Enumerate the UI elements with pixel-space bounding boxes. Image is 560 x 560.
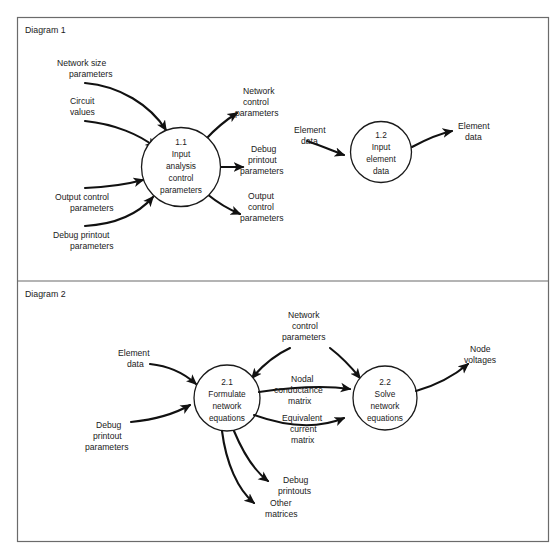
label-network-control-parameters-out-line2: control bbox=[243, 97, 269, 107]
outer-frame bbox=[18, 18, 549, 542]
label-network-control-parameters-2-line2: control bbox=[292, 321, 318, 331]
label-debug-printouts: Debug bbox=[283, 475, 309, 485]
process-1-1-line5: parameters bbox=[160, 185, 202, 195]
label-nodal-conductance-matrix: Nodal bbox=[291, 374, 314, 384]
process-1-2-id: 1.2 bbox=[375, 130, 387, 140]
label-nodal-conductance-matrix-line3: matrix bbox=[288, 396, 312, 406]
flow-element-data-out-of-1-2 bbox=[412, 131, 452, 147]
label-network-size-parameters: Network size bbox=[57, 58, 106, 68]
label-debug-printout-parameters-in: Debug printout bbox=[53, 230, 110, 240]
label-element-data-into-1-2: Element bbox=[294, 125, 326, 135]
label-other-matrices: Other bbox=[270, 498, 292, 508]
process-2-1-line2: Formulate bbox=[208, 389, 246, 399]
process-1-2-line4: data bbox=[373, 166, 390, 176]
process-1-2-line2: Input bbox=[372, 142, 391, 152]
flow-network-control-parameters-into-2-2 bbox=[330, 348, 360, 378]
label-output-control-parameters-out: Output bbox=[248, 191, 274, 201]
flow-network-control-parameters-into-2-1 bbox=[252, 348, 290, 378]
label-node-voltages-line2: voltages bbox=[464, 355, 496, 365]
process-2-1-line3: network bbox=[212, 401, 242, 411]
flow-debug-printouts bbox=[234, 431, 268, 481]
label-nodal-conductance-matrix-line2: conductance bbox=[274, 385, 323, 395]
flow-node-voltages bbox=[416, 364, 468, 391]
label-debug-printout-parameters-out: Debug bbox=[251, 144, 277, 154]
flow-element-data-into-2-1 bbox=[150, 364, 196, 384]
label-circuit-values: Circuit bbox=[70, 96, 95, 106]
process-2-2-line2: Solve bbox=[375, 389, 396, 399]
dataflow-diagram-canvas: Diagram 1 Diagram 2 1.1 Input analysis c… bbox=[0, 0, 560, 560]
process-2-2-line4: equations bbox=[367, 413, 403, 423]
label-debug-printout-parameters-out-line2: printout bbox=[248, 155, 277, 165]
process-2-1-id: 2.1 bbox=[221, 377, 233, 387]
label-element-data-out-of-1-2-line2: data bbox=[465, 132, 482, 142]
label-output-control-parameters-in: Output control bbox=[55, 192, 109, 202]
label-network-control-parameters-out-line3: parameters bbox=[235, 108, 278, 118]
label-network-size-parameters-line2: parameters bbox=[69, 69, 112, 79]
label-element-data-out-of-1-2: Element bbox=[458, 121, 490, 131]
panel-title-diagram-1: Diagram 1 bbox=[25, 25, 66, 35]
label-output-control-parameters-in-line2: parameters bbox=[70, 203, 113, 213]
label-element-data-2: Element bbox=[118, 348, 150, 358]
label-debug-printout-parameters-in-line2: parameters bbox=[70, 241, 113, 251]
label-debug-printout-parameters-out-line3: parameters bbox=[240, 166, 283, 176]
process-2-2-id: 2.2 bbox=[379, 377, 391, 387]
flow-output-control-parameters-out bbox=[207, 194, 240, 214]
flow-circuit-values bbox=[85, 121, 155, 147]
label-other-matrices-line2: matrices bbox=[265, 509, 297, 519]
label-debug-printout-parameters-2-line2: printout bbox=[93, 431, 122, 441]
label-output-control-parameters-out-line3: parameters bbox=[240, 213, 283, 223]
flow-output-control-parameters-in bbox=[85, 180, 143, 188]
process-1-1-line4: control bbox=[169, 173, 194, 183]
process-1-2-line3: element bbox=[366, 154, 396, 164]
label-output-control-parameters-out-line2: control bbox=[248, 202, 274, 212]
label-element-data-2-line2: data bbox=[127, 359, 144, 369]
label-equivalent-current-matrix: Equivalent bbox=[282, 413, 323, 423]
label-node-voltages: Node bbox=[470, 344, 491, 354]
process-1-1-line2: Input bbox=[172, 149, 191, 159]
diagram-page: Diagram 1 Diagram 2 1.1 Input analysis c… bbox=[0, 0, 560, 560]
label-network-control-parameters-2: Network bbox=[288, 310, 320, 320]
flow-network-control-parameters-out bbox=[205, 113, 237, 140]
label-debug-printout-parameters-2: Debug bbox=[96, 420, 122, 430]
label-element-data-into-1-2-line2: data bbox=[301, 136, 318, 146]
label-equivalent-current-matrix-line3: matrix bbox=[291, 435, 315, 445]
label-network-control-parameters-out: Network bbox=[243, 86, 275, 96]
process-2-1-line4: equations bbox=[209, 413, 245, 423]
process-2-2-line3: network bbox=[370, 401, 400, 411]
process-1-1-line3: analysis bbox=[166, 161, 196, 171]
label-network-control-parameters-2-line3: parameters bbox=[282, 332, 325, 342]
label-debug-printouts-line2: printouts bbox=[278, 486, 311, 496]
process-1-1-id: 1.1 bbox=[175, 137, 187, 147]
label-debug-printout-parameters-2-line3: parameters bbox=[85, 442, 128, 452]
label-equivalent-current-matrix-line2: current bbox=[290, 424, 317, 434]
flow-debug-printout-parameters-into-2-1 bbox=[131, 405, 190, 422]
panel-title-diagram-2: Diagram 2 bbox=[25, 289, 66, 299]
label-circuit-values-line2: values bbox=[70, 107, 95, 117]
